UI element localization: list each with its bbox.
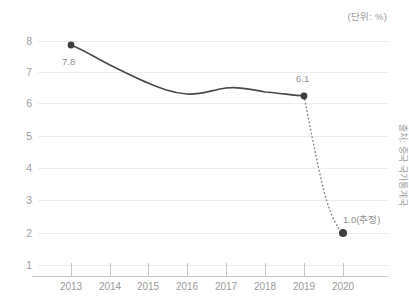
data-label-2020: 1.0(추정) xyxy=(343,212,381,226)
series-line-actual xyxy=(71,45,304,96)
data-point-2019 xyxy=(301,93,308,100)
x-tick-label-2016: 2016 xyxy=(167,281,207,292)
data-point-2013 xyxy=(68,42,75,49)
series-line-projected xyxy=(304,96,343,233)
chart-plot-area xyxy=(0,0,409,307)
data-label-2019: 6.1 xyxy=(296,73,309,84)
data-point-2020 xyxy=(339,229,347,237)
source-attribution: 출처: 중국 국가통계국 xyxy=(397,124,409,206)
x-tick-label-2015: 2015 xyxy=(128,281,168,292)
x-tick-label-2019: 2019 xyxy=(284,281,324,292)
x-tick-label-2017: 2017 xyxy=(206,281,246,292)
gridlines xyxy=(38,41,388,265)
x-tick-label-2018: 2018 xyxy=(245,281,285,292)
x-tick-label-2013: 2013 xyxy=(51,281,91,292)
x-tick-label-2020: 2020 xyxy=(323,281,363,292)
x-tick-label-2014: 2014 xyxy=(90,281,130,292)
chart-container: (단위: %) 8 7 6 5 4 3 2 1 xyxy=(0,0,409,307)
data-label-2013: 7.8 xyxy=(62,56,75,67)
